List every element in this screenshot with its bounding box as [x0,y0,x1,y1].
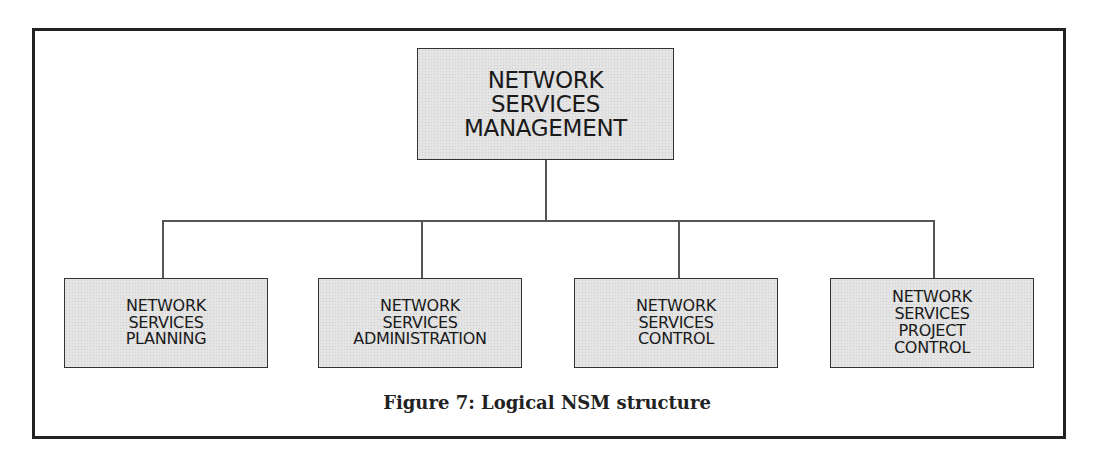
node-label: NETWORK SERVICES PLANNING [126,298,207,348]
connector-root-down [545,160,547,221]
node-label: NETWORK SERVICES MANAGEMENT [464,68,627,140]
node-label: NETWORK SERVICES CONTROL [636,298,716,348]
connector-child-3 [678,220,680,278]
node-network-services-administration: NETWORK SERVICES ADMINISTRATION [318,278,522,368]
connector-child-2 [421,220,423,278]
figure-caption: Figure 7: Logical NSM structure [0,392,1094,413]
node-network-services-control: NETWORK SERVICES CONTROL [574,278,778,368]
node-label: NETWORK SERVICES ADMINISTRATION [353,298,486,348]
connector-child-1 [162,220,164,278]
node-network-services-project-control: NETWORK SERVICES PROJECT CONTROL [830,278,1034,368]
node-network-services-planning: NETWORK SERVICES PLANNING [64,278,268,368]
connector-horizontal-bus [162,220,935,222]
node-label: NETWORK SERVICES PROJECT CONTROL [892,289,972,356]
connector-child-4 [933,220,935,278]
node-network-services-management: NETWORK SERVICES MANAGEMENT [417,48,674,160]
